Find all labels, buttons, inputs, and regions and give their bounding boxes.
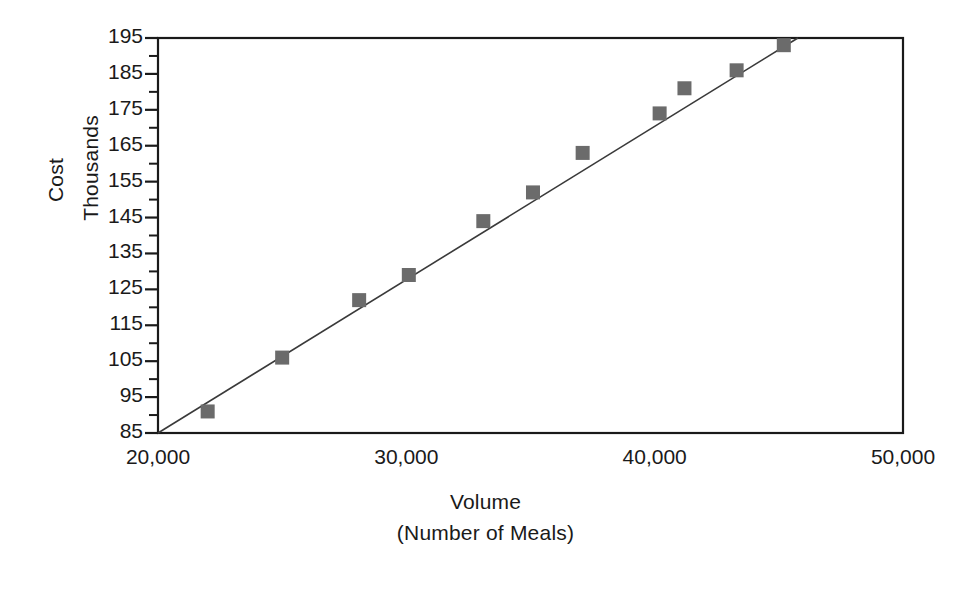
- data-point-marker: [677, 81, 691, 95]
- data-point-marker: [352, 293, 366, 307]
- data-point-marker: [275, 351, 289, 365]
- plot-frame: [158, 38, 903, 433]
- data-point-marker: [526, 185, 540, 199]
- data-point-marker: [777, 38, 791, 52]
- data-point-marker: [402, 268, 416, 282]
- trend-line: [158, 38, 798, 433]
- data-point-marker: [730, 63, 744, 77]
- data-point-marker: [653, 106, 667, 120]
- data-point-marker: [576, 146, 590, 160]
- cost-volume-scatter-chart: Cost Thousands Volume (Number of Meals) …: [0, 0, 971, 589]
- data-point-marker: [476, 214, 490, 228]
- data-point-marker: [201, 404, 215, 418]
- plot-area: [0, 0, 971, 589]
